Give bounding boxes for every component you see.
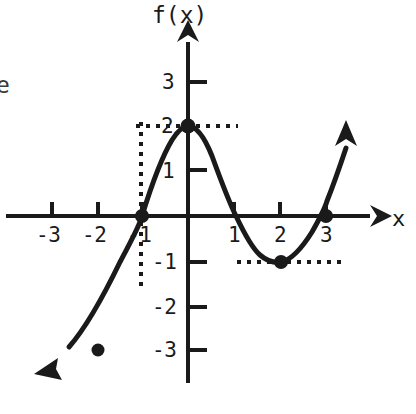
graph-canvas	[0, 0, 416, 414]
x-axis-label: x	[392, 206, 405, 231]
x-axis	[6, 205, 392, 227]
y-tick-label-neg3: -3	[152, 338, 176, 362]
y-tick-label-1: 1	[162, 159, 174, 183]
point-neg2-neg3	[92, 344, 105, 357]
y-tick-label-neg2: -2	[152, 295, 176, 319]
x-tick-label-neg2: -2	[82, 223, 106, 247]
y-axis	[177, 20, 199, 383]
point-2-neg1	[274, 255, 288, 269]
point-0-2	[181, 119, 196, 134]
x-tick-label-neg1: -1	[127, 223, 151, 247]
function-graph-figure: e f(x)	[0, 0, 416, 414]
y-tick-label-neg1: -1	[152, 250, 176, 274]
x-tick-label-3: 3	[320, 223, 332, 247]
y-tick-label-3: 3	[162, 70, 174, 94]
point-neg1-0	[135, 209, 149, 223]
x-tick-label-neg3: -3	[36, 223, 60, 247]
x-tick-label-1: 1	[228, 223, 240, 247]
function-curve	[34, 120, 357, 380]
y-tick-label-2: 2	[161, 114, 173, 138]
point-3-0	[319, 209, 333, 223]
x-tick-label-2: 2	[274, 223, 286, 247]
